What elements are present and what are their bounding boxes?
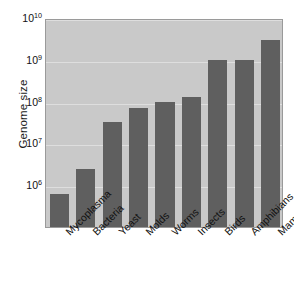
x-axis-tick-label: Birds (222, 229, 230, 237)
x-axis-tick-label: Insects (195, 229, 203, 237)
bar (129, 108, 148, 227)
x-axis-tick-label: Mycoplasma (63, 229, 71, 237)
x-axis-tick-label: Mammals (275, 229, 283, 237)
x-axis-tick-label: Bacteria (90, 229, 98, 237)
bar (208, 60, 227, 227)
bar (235, 60, 254, 227)
y-axis-tick-label: 109 (8, 55, 42, 66)
gridline (46, 20, 282, 21)
x-axis-tick-label: Yeast (116, 229, 124, 237)
bar (155, 102, 174, 227)
plot-area (45, 19, 283, 228)
y-axis-tick-labels: 1061071081091010 (8, 0, 42, 294)
bar (50, 194, 69, 227)
y-axis-tick-label: 108 (8, 97, 42, 108)
x-axis-tick-labels: MycoplasmaBacteriaYeastMoldsWormsInsects… (45, 229, 283, 294)
x-axis-tick-label: Worms (169, 229, 177, 237)
genome-size-bar-chart: Genome size 1061071081091010 MycoplasmaB… (0, 0, 294, 294)
x-axis-tick-label: Amphibians (248, 229, 256, 237)
y-axis-tick-label: 1010 (8, 13, 42, 24)
y-axis-tick-label: 107 (8, 138, 42, 149)
y-axis-tick-label: 106 (8, 180, 42, 191)
x-axis-tick-label: Molds (143, 229, 151, 237)
